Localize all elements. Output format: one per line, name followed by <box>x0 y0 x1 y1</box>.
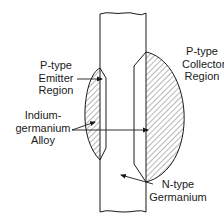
germanium-label-line1: N-type <box>148 178 208 191</box>
germanium-bar <box>100 13 146 212</box>
germanium-label: N-type Germanium <box>148 178 208 203</box>
alloy-label-line3: Alloy <box>14 134 72 147</box>
collector-label: P-type Collector Region <box>182 45 222 83</box>
collector-label-line3: Region <box>182 70 222 83</box>
alloy-label-line2: germanium <box>14 122 72 135</box>
emitter-region <box>85 68 106 160</box>
emitter-label-line3: Region <box>38 84 74 97</box>
emitter-label: P-type Emitter Region <box>38 59 74 97</box>
alloy-label-line1: Indium- <box>14 109 72 122</box>
emitter-label-line1: P-type <box>38 59 74 72</box>
collector-region <box>134 52 184 182</box>
alloy-label: Indium- germanium Alloy <box>14 109 72 147</box>
emitter-label-line2: Emitter <box>38 72 74 85</box>
collector-label-line2: Collector <box>182 58 222 71</box>
germanium-label-line2: Germanium <box>148 191 208 204</box>
collector-label-line1: P-type <box>182 45 222 58</box>
